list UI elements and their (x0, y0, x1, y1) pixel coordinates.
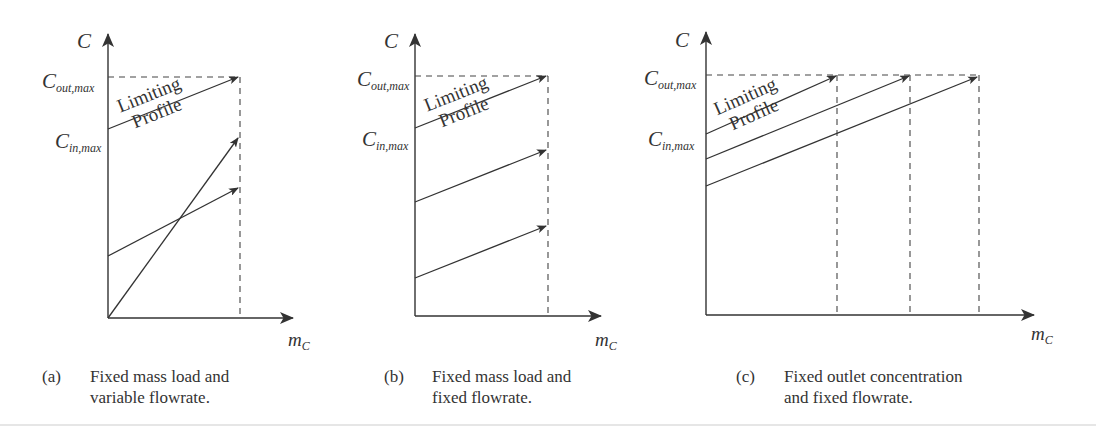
y-axis-label: C (77, 29, 92, 53)
limiting-profile-label: Limiting Profile (114, 72, 191, 135)
c-out-max-label: Cout,max (644, 66, 697, 92)
c-out-max-label: Cout,max (357, 67, 410, 93)
caption-text-line2: and fixed flowrate. (784, 387, 913, 408)
caption-text-line1: Fixed mass load and (432, 366, 571, 387)
shallow-profile-arrow (108, 188, 238, 256)
c-out-max-label: Cout,max (42, 69, 95, 95)
caption-tag: (b) (384, 366, 404, 387)
caption-a: (a) Fixed mass load and variable flowrat… (42, 366, 302, 410)
middle-profile-arrow (415, 150, 546, 202)
c-in-max-label: Cin,max (362, 127, 409, 153)
x-axis-label: mC (1031, 323, 1054, 347)
lower-profile-arrow (415, 226, 546, 278)
x-axis-label: mC (595, 329, 618, 353)
panel-b: C Cout,max Cin,max mC Limiting Profile (357, 29, 618, 353)
caption-b: (b) Fixed mass load and fixed flowrate. (384, 366, 644, 410)
caption-c: (c) Fixed outlet concentration and fixed… (736, 366, 1056, 410)
x-axis-label: mC (288, 329, 311, 353)
c-in-max-label: Cin,max (648, 127, 695, 153)
y-axis-label: C (675, 28, 690, 52)
c-in-max-label: Cin,max (55, 129, 102, 155)
limiting-profile-label: Limiting Profile (710, 73, 788, 138)
bottom-divider (0, 424, 1096, 426)
caption-text-line1: Fixed mass load and (90, 366, 229, 387)
caption-text-line2: variable flowrate. (90, 387, 210, 408)
limiting-profile-label: Limiting Profile (421, 71, 498, 134)
y-axis-label: C (384, 29, 399, 53)
panel-a: C Cout,max Cin,max mC Limiting Profile (42, 29, 311, 353)
caption-tag: (a) (42, 366, 61, 387)
steep-profile-arrow (108, 138, 238, 318)
caption-text-line1: Fixed outlet concentration (784, 366, 962, 387)
caption-tag: (c) (736, 366, 755, 387)
panel-c: C Cout,max Cin,max mC Limiting Profile (644, 28, 1054, 347)
caption-text-line2: fixed flowrate. (432, 387, 532, 408)
